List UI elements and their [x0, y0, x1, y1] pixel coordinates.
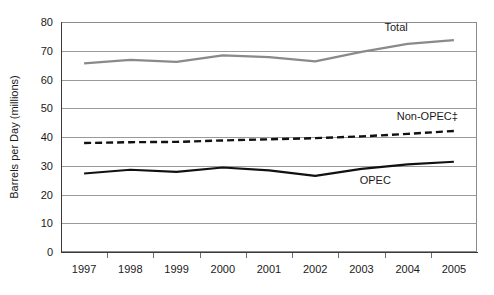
x-tick-label-2003: 2003: [349, 263, 373, 275]
y-tick-label-50: 50: [41, 102, 53, 114]
series-label-non-opec: Non-OPEC‡: [397, 110, 458, 122]
x-tick-label-1999: 1999: [164, 263, 188, 275]
x-tick-label-2004: 2004: [395, 263, 419, 275]
x-tick-label-1997: 1997: [72, 263, 96, 275]
chart-canvas: 01020304050607080 1997199819992000200120…: [0, 0, 494, 295]
x-tick-label-2002: 2002: [303, 263, 327, 275]
oil-production-line-chart: 01020304050607080 1997199819992000200120…: [0, 0, 494, 295]
y-axis-tick-labels: 01020304050607080: [41, 16, 53, 258]
y-tick-label-0: 0: [47, 246, 53, 258]
x-axis-tick-labels: 199719981999200020012002200320042005: [72, 263, 466, 275]
series-label-opec: OPEC: [360, 174, 391, 186]
y-tick-label-30: 30: [41, 160, 53, 172]
y-tick-label-80: 80: [41, 16, 53, 28]
y-axis-title-text: Barrels per Day (millions): [8, 75, 20, 198]
y-tick-label-70: 70: [41, 45, 53, 57]
x-tick-label-1998: 1998: [118, 263, 142, 275]
y-tick-label-60: 60: [41, 74, 53, 86]
x-tick-label-2005: 2005: [442, 263, 466, 275]
y-tick-label-10: 10: [41, 217, 53, 229]
series-label-total: Total: [384, 21, 407, 33]
y-tick-label-20: 20: [41, 189, 53, 201]
y-tick-label-40: 40: [41, 131, 53, 143]
x-tick-label-2000: 2000: [211, 263, 235, 275]
x-tick-label-2001: 2001: [257, 263, 281, 275]
y-axis-title: Barrels per Day (millions): [8, 75, 20, 198]
